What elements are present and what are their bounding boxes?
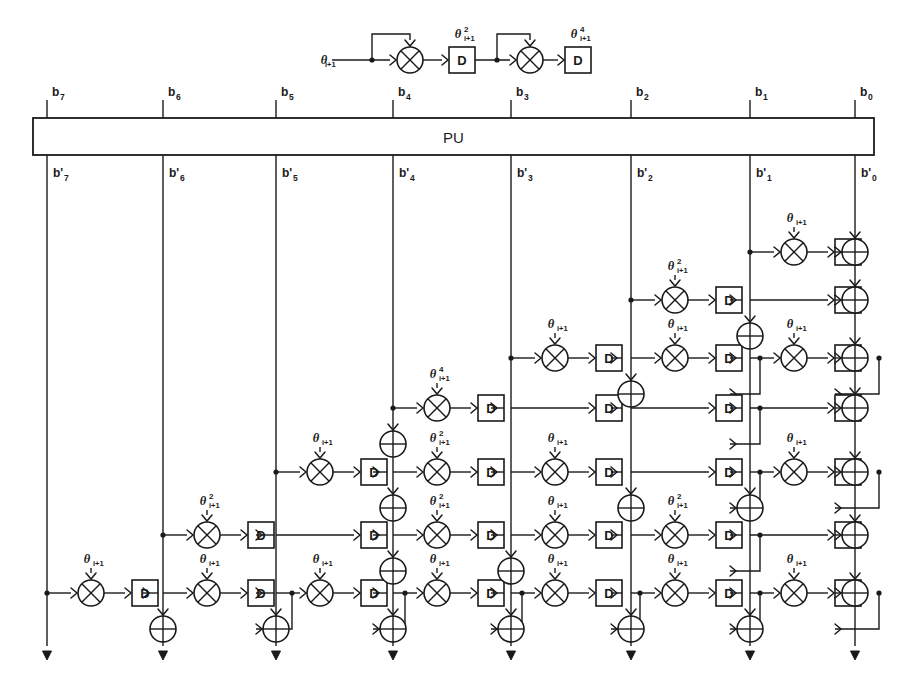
arrowhead-icon <box>525 40 535 46</box>
arrowhead-icon <box>187 530 193 540</box>
svg-text:i+1: i+1 <box>677 324 688 333</box>
arrowhead-icon <box>670 338 680 344</box>
arrowhead-icon <box>828 467 834 477</box>
svg-text:θ: θ <box>548 317 555 331</box>
svg-text:θ: θ <box>787 317 794 331</box>
svg-text:2: 2 <box>439 492 444 501</box>
arrowhead-icon <box>241 530 247 540</box>
arrowhead-icon <box>851 651 860 660</box>
svg-text:b: b <box>755 85 762 99</box>
cell-r5-c5-theta-label: θi+12 <box>668 492 688 511</box>
svg-text:i+1: i+1 <box>557 559 568 568</box>
top-bit-label-1: b1 <box>755 85 768 102</box>
svg-text:b': b' <box>756 166 766 180</box>
svg-text:θ: θ <box>668 259 675 273</box>
svg-text:b': b' <box>637 166 647 180</box>
cell-r6-c6-multiplier <box>781 580 807 606</box>
arrowhead-icon <box>535 530 541 540</box>
column-adder-c5-r3 <box>618 381 644 407</box>
svg-text:2: 2 <box>464 25 469 34</box>
cell-r5-c3-multiplier <box>424 522 450 548</box>
diagram-canvas: θi+1DDθi+12θi+14b7b6b5b4b3b2b1b0PUb'7b'6… <box>0 0 905 673</box>
arrowhead-icon <box>432 452 442 458</box>
cell-r0-c6-multiplier <box>781 239 807 265</box>
arrowhead-icon <box>774 467 780 477</box>
svg-text:b': b' <box>861 166 871 180</box>
legend-multiplier-2 <box>517 47 543 73</box>
arrowhead-icon <box>43 651 52 660</box>
svg-text:θ: θ <box>668 317 675 331</box>
svg-text:b': b' <box>399 166 409 180</box>
svg-text:4: 4 <box>410 173 415 183</box>
cell-r6-c6-theta-label: θi+1 <box>787 552 807 568</box>
arrowhead-icon <box>432 573 442 579</box>
svg-text:i+1: i+1 <box>439 438 450 447</box>
arrowhead-icon <box>187 588 193 598</box>
svg-text:θ: θ <box>430 367 437 381</box>
bottom-bit-label-4: b'4 <box>399 166 415 183</box>
bottom-column-adder-c5 <box>618 616 644 642</box>
arrowhead-icon <box>550 452 560 458</box>
svg-text:i+1: i+1 <box>580 34 591 43</box>
cell-r4-c3-theta-label: θi+12 <box>430 429 450 448</box>
cell-r1-c5-multiplier <box>662 287 688 313</box>
arrowhead-icon <box>670 280 680 286</box>
column-adder-c6-r2 <box>737 323 763 349</box>
bottom-column-adder-c3 <box>380 616 406 642</box>
svg-text:b': b' <box>282 166 292 180</box>
bottom-bit-label-6: b'6 <box>169 166 185 183</box>
cell-r2-c4-theta-label: θi+1 <box>548 317 568 333</box>
arrowhead-icon <box>471 467 477 477</box>
arrowhead-icon <box>655 530 661 540</box>
svg-text:i+1: i+1 <box>677 501 688 510</box>
bottom-bit-label-3: b'3 <box>517 166 533 183</box>
svg-text:D: D <box>573 53 582 68</box>
cell-r3-c7-adder <box>842 395 868 421</box>
arrowhead-icon <box>709 530 715 540</box>
legend-delay-1: D <box>449 47 475 73</box>
bottom-column-adder-c1 <box>150 616 176 642</box>
cell-r5-c1-multiplier <box>194 522 220 548</box>
cell-r4-c6-theta-label: θi+1 <box>787 431 807 447</box>
cell-r4-c3-multiplier <box>424 459 450 485</box>
cell-r6-c0-multiplier <box>78 580 104 606</box>
bottom-bit-label-2: b'2 <box>637 166 653 183</box>
svg-text:2: 2 <box>209 492 214 501</box>
arrowhead-icon <box>354 467 360 477</box>
cell-r5-c3-theta-label: θi+12 <box>430 492 450 511</box>
svg-text:b': b' <box>517 166 527 180</box>
cell-r6-c5-multiplier <box>662 580 688 606</box>
bottom-column-adder-c4 <box>498 616 524 642</box>
svg-text:5: 5 <box>289 92 294 102</box>
column-adder-c6-r5 <box>737 495 763 521</box>
legend-input-theta-label: θi+1 <box>321 53 336 69</box>
cell-r4-c6-multiplier <box>781 459 807 485</box>
svg-text:θ: θ <box>787 211 794 225</box>
svg-text:3: 3 <box>524 92 529 102</box>
svg-text:b: b <box>636 85 643 99</box>
svg-text:i+1: i+1 <box>557 501 568 510</box>
arrowhead-icon <box>828 403 834 413</box>
cell-r4-c4-multiplier <box>542 459 568 485</box>
cell-r6-c3-multiplier <box>424 580 450 606</box>
svg-text:i+1: i+1 <box>677 266 688 275</box>
svg-text:θ: θ <box>455 27 462 41</box>
svg-text:b: b <box>52 85 59 99</box>
svg-text:2: 2 <box>677 492 682 501</box>
cell-r5-c1-theta-label: θi+12 <box>200 492 220 511</box>
arrowhead-icon <box>828 588 834 598</box>
cell-r2-c6-theta-label: θi+1 <box>787 317 807 333</box>
pu-block-label: PU <box>443 129 464 146</box>
bottom-bit-label-0: b'0 <box>861 166 877 183</box>
svg-text:i+1: i+1 <box>677 559 688 568</box>
cell-r5-c4-theta-label: θi+1 <box>548 494 568 510</box>
arrowhead-icon <box>709 588 715 598</box>
cell-r3-c3-theta-label: θi+14 <box>430 365 450 384</box>
cell-r6-c7-adder <box>842 580 868 606</box>
top-bit-label-5: b5 <box>281 85 294 102</box>
legend-theta-squared-label: θi+12 <box>455 25 475 44</box>
column-adder-c3-r5 <box>380 495 406 521</box>
svg-text:θ: θ <box>313 431 320 445</box>
svg-text:i+1: i+1 <box>209 501 220 510</box>
svg-text:6: 6 <box>180 173 185 183</box>
